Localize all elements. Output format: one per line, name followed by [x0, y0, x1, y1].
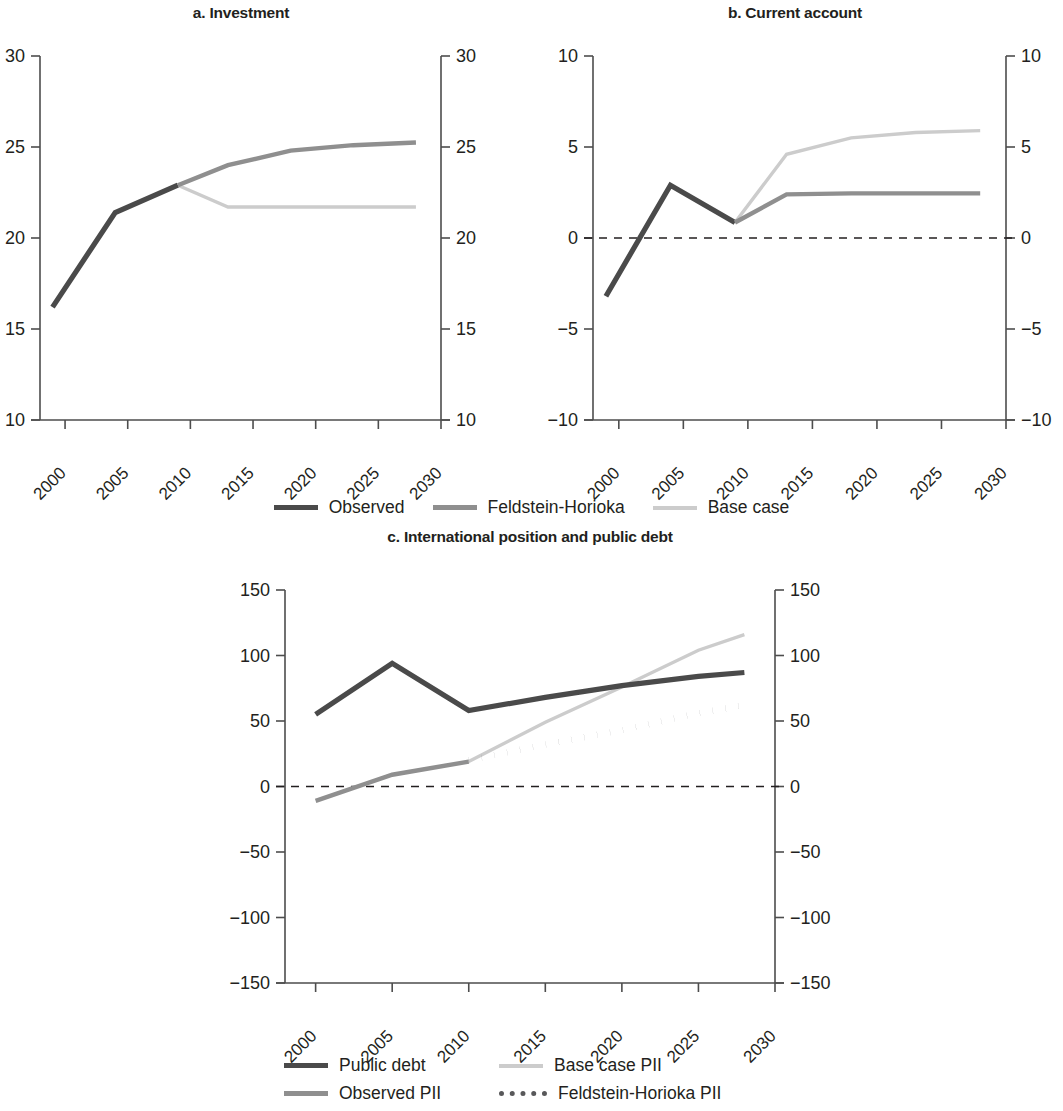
svg-text:15: 15: [456, 319, 476, 339]
line-swatch-icon: [653, 506, 697, 510]
legend-item-feldstein-horioka: Feldstein-Horioka: [433, 497, 625, 518]
svg-text:0: 0: [568, 228, 578, 248]
svg-text:−100: −100: [790, 908, 831, 928]
panel-a-plot: 1010151520202525303020002005201020152020…: [5, 46, 476, 504]
dotted-line-swatch-icon: [499, 1091, 547, 1096]
legend-label: Feldstein-Horioka: [488, 497, 625, 518]
line-swatch-icon: [274, 505, 318, 510]
legend-bottom-row-1: Public debt Base case PII: [0, 1055, 1063, 1076]
svg-text:100: 100: [790, 646, 820, 666]
legend-label: Public debt: [339, 1055, 426, 1076]
legend-label: Feldstein-Horioka PII: [558, 1083, 721, 1104]
line-swatch-icon: [433, 505, 477, 510]
svg-text:−50: −50: [239, 842, 270, 862]
chart-svg: 1010151520202525303020002005201020152020…: [0, 0, 1063, 1111]
svg-text:5: 5: [568, 137, 578, 157]
line-swatch-icon: [284, 1063, 328, 1068]
svg-text:−100: −100: [229, 908, 270, 928]
svg-text:0: 0: [1021, 228, 1031, 248]
svg-text:20: 20: [456, 228, 476, 248]
svg-text:50: 50: [250, 711, 270, 731]
legend-item-observed-pii: Observed PII: [284, 1083, 499, 1104]
legend-item-base-case-pii: Base case PII: [499, 1055, 779, 1076]
figure-root: a. Investment b. Current account c. Inte…: [0, 0, 1063, 1111]
legend-item-observed: Observed: [274, 497, 405, 518]
svg-text:100: 100: [240, 646, 270, 666]
legend-label: Observed: [329, 497, 405, 518]
svg-text:−50: −50: [790, 842, 821, 862]
legend-top: Observed Feldstein-Horioka Base case: [0, 497, 1063, 518]
svg-text:20: 20: [5, 228, 25, 248]
legend-bottom-row-2: Observed PII Feldstein-Horioka PII: [0, 1083, 1063, 1104]
svg-text:30: 30: [456, 46, 476, 66]
svg-text:10: 10: [558, 46, 578, 66]
svg-text:−5: −5: [557, 319, 578, 339]
svg-text:10: 10: [5, 410, 25, 430]
svg-text:30: 30: [5, 46, 25, 66]
svg-text:10: 10: [1021, 46, 1041, 66]
svg-text:10: 10: [456, 410, 476, 430]
legend-label: Base case PII: [554, 1055, 662, 1076]
line-swatch-icon: [284, 1091, 328, 1096]
panel-c-plot: −150−150−100−100−50−50005050100100150150…: [229, 580, 830, 1067]
svg-text:0: 0: [260, 777, 270, 797]
legend-item-feldstein-horioka-pii: Feldstein-Horioka PII: [499, 1083, 779, 1104]
svg-text:−10: −10: [1021, 410, 1052, 430]
legend-item-public-debt: Public debt: [284, 1055, 499, 1076]
svg-text:15: 15: [5, 319, 25, 339]
svg-text:150: 150: [790, 580, 820, 600]
svg-text:25: 25: [5, 137, 25, 157]
panel-b-plot: −10−10−5−5005510102000200520102015202020…: [547, 46, 1051, 504]
svg-text:−5: −5: [1021, 319, 1042, 339]
svg-text:−10: −10: [547, 410, 578, 430]
svg-text:5: 5: [1021, 137, 1031, 157]
svg-text:50: 50: [790, 711, 810, 731]
svg-text:25: 25: [456, 137, 476, 157]
line-swatch-icon: [499, 1064, 543, 1068]
legend-label: Base case: [708, 497, 790, 518]
legend-item-base-case: Base case: [653, 497, 790, 518]
svg-text:150: 150: [240, 580, 270, 600]
svg-text:−150: −150: [229, 973, 270, 993]
svg-text:0: 0: [790, 777, 800, 797]
svg-text:−150: −150: [790, 973, 831, 993]
legend-label: Observed PII: [339, 1083, 441, 1104]
